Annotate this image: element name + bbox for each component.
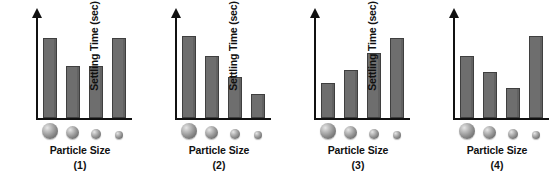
bar xyxy=(529,36,543,118)
x-axis-line xyxy=(453,118,549,120)
y-axis-label: Settling Time (sec) xyxy=(87,0,101,98)
particle-sphere-icon xyxy=(42,123,58,139)
x-axis-line xyxy=(175,118,271,120)
x-axis-label: Particle Size xyxy=(437,144,557,156)
particle-sphere-icon xyxy=(91,129,101,139)
particle-sphere-icon xyxy=(230,129,240,139)
bar xyxy=(182,36,196,118)
plot-area xyxy=(177,18,271,118)
y-axis-label: Settling Time (sec) xyxy=(226,0,240,98)
panel-number: (2) xyxy=(159,159,279,171)
particle-sphere-icon xyxy=(508,129,518,139)
bar xyxy=(112,38,126,118)
particle-sphere-icon xyxy=(344,126,357,139)
plot-area xyxy=(455,18,549,118)
particle-sphere-icon xyxy=(181,123,197,139)
x-axis-line xyxy=(36,118,132,120)
chart-panel-1: Settling Time (sec) Particle Size (1) xyxy=(0,0,139,182)
bar xyxy=(43,38,57,118)
bar xyxy=(460,56,474,118)
particle-sphere-icon xyxy=(320,123,336,139)
bar xyxy=(390,38,404,118)
panel-number: (3) xyxy=(298,159,418,171)
bar xyxy=(506,88,520,118)
settling-time-figure: Settling Time (sec) Particle Size (1) Se… xyxy=(0,0,557,182)
particle-sphere-icon xyxy=(115,131,123,139)
particle-sphere-icon xyxy=(483,126,496,139)
chart-panel-4: Settling Time (sec) Particle Size (4) xyxy=(417,0,556,182)
chart-panel-2: Settling Time (sec) Particle Size (2) xyxy=(139,0,278,182)
y-axis-label: Settling Time (sec) xyxy=(365,0,379,98)
panel-number: (1) xyxy=(20,159,140,171)
particle-sphere-row xyxy=(455,121,549,139)
particle-sphere-icon xyxy=(205,126,218,139)
particle-sphere-row xyxy=(38,121,132,139)
bar xyxy=(251,94,265,118)
particle-sphere-row xyxy=(316,121,410,139)
particle-sphere-icon xyxy=(66,126,79,139)
bar xyxy=(321,83,335,118)
particle-sphere-icon xyxy=(459,123,475,139)
plot-area xyxy=(316,18,410,118)
bar xyxy=(205,56,219,118)
panel-number: (4) xyxy=(437,159,557,171)
x-axis-label: Particle Size xyxy=(298,144,418,156)
particle-sphere-icon xyxy=(254,131,262,139)
particle-sphere-icon xyxy=(369,129,379,139)
particle-sphere-icon xyxy=(532,131,540,139)
bar xyxy=(66,66,80,118)
chart-panel-3: Settling Time (sec) Particle Size (3) xyxy=(278,0,417,182)
plot-area xyxy=(38,18,132,118)
particle-sphere-row xyxy=(177,121,271,139)
bar xyxy=(483,72,497,118)
x-axis-line xyxy=(314,118,410,120)
x-axis-label: Particle Size xyxy=(159,144,279,156)
x-axis-label: Particle Size xyxy=(20,144,140,156)
bar xyxy=(344,70,358,118)
particle-sphere-icon xyxy=(393,131,401,139)
